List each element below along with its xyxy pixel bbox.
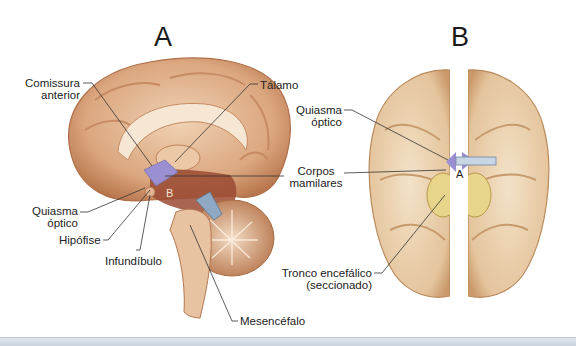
label-hipofise: Hipófise — [59, 234, 101, 246]
label-comissura-anterior: Comissura anterior — [8, 77, 80, 101]
label-quiasma-optico-b: Quiasma óptico — [290, 104, 342, 128]
sagittal-brain — [69, 58, 291, 321]
bottom-border — [0, 337, 576, 346]
label-mesencefalo: Mesencéfalo — [240, 315, 305, 327]
label-infundibulo: Infundíbulo — [105, 255, 162, 267]
label-quiasma-optico-a: Quiasma óptico — [10, 205, 78, 229]
inferior-brain — [344, 60, 549, 305]
label-corpos-mamilares: Corpos mamilares — [288, 165, 344, 189]
probe-marker-b: B — [166, 187, 173, 199]
label-tronco-encefalico: Tronco encefálico (seccionado) — [262, 267, 372, 291]
probe-marker-a: A — [456, 168, 463, 180]
label-talamo: Tálamo — [260, 79, 298, 91]
